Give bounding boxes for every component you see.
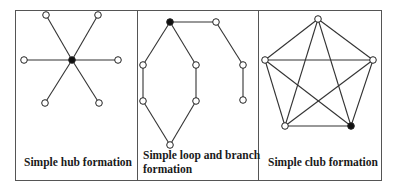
hub-node: [96, 100, 103, 107]
club-edge: [265, 60, 285, 126]
loop-branch-edge: [143, 101, 170, 145]
hub-node: [115, 57, 122, 64]
loop-branch-node: [140, 62, 147, 69]
club-node: [282, 123, 289, 130]
loop-branch-node: [140, 98, 147, 105]
hub-hub-node: [69, 57, 76, 64]
hub-edge: [72, 60, 99, 103]
loop-branch-edge: [170, 22, 196, 65]
caption-loop-branch-line1: Simple loop and branch: [143, 148, 260, 162]
loop-branch-node: [193, 98, 200, 105]
club-node: [370, 57, 377, 64]
hub-edge: [46, 15, 72, 60]
club-hub-node: [348, 123, 355, 130]
loop-branch-edge: [170, 101, 196, 145]
hub-node: [43, 12, 50, 19]
club-edge: [265, 19, 318, 60]
hub-node: [95, 12, 102, 19]
edges: [24, 15, 373, 145]
caption-loop-branch-line2: formation: [143, 162, 192, 176]
loop-branch-node: [240, 97, 247, 104]
loop-branch-edge: [216, 22, 243, 65]
club-edge: [351, 60, 373, 126]
caption-club: Simple club formation: [268, 155, 378, 169]
club-edge: [265, 60, 351, 126]
hub-edge: [45, 60, 72, 103]
club-edge: [285, 60, 373, 126]
hub-node: [42, 100, 49, 107]
club-node: [315, 16, 322, 23]
loop-branch-edge: [143, 22, 170, 65]
loop-branch-node: [240, 62, 247, 69]
club-edge: [285, 19, 318, 126]
club-node: [262, 57, 269, 64]
loop-branch-node: [213, 19, 220, 26]
hub-node: [21, 57, 28, 64]
hub-edge: [72, 15, 98, 60]
nodes: [21, 12, 377, 149]
loop-branch-hub-node: [167, 19, 174, 26]
caption-hub: Simple hub formation: [24, 155, 132, 169]
club-edge: [318, 19, 351, 126]
club-edge: [318, 19, 373, 60]
loop-branch-node: [193, 62, 200, 69]
